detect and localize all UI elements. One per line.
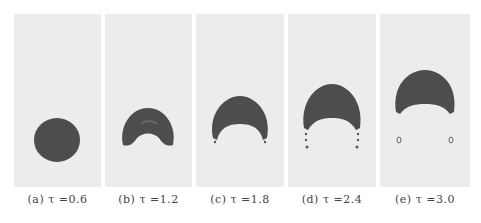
bubble-cap-icon <box>288 14 376 187</box>
bubble-detached-icon <box>380 14 470 187</box>
caption-a: (a) τ =0.6 <box>14 193 101 209</box>
panel-e <box>380 14 470 187</box>
bubble-round-icon <box>14 14 101 187</box>
panel-c <box>196 14 284 187</box>
bubble-indented-icon <box>105 14 192 187</box>
panel-d <box>288 14 376 187</box>
caption-e: (e) τ =3.0 <box>380 193 470 209</box>
panel-b <box>105 14 192 187</box>
panel-a <box>14 14 101 187</box>
bubble-crescent-icon <box>196 14 284 187</box>
caption-d: (d) τ =2.4 <box>288 193 376 209</box>
caption-c: (c) τ =1.8 <box>196 193 284 209</box>
caption-b: (b) τ =1.2 <box>105 193 192 209</box>
